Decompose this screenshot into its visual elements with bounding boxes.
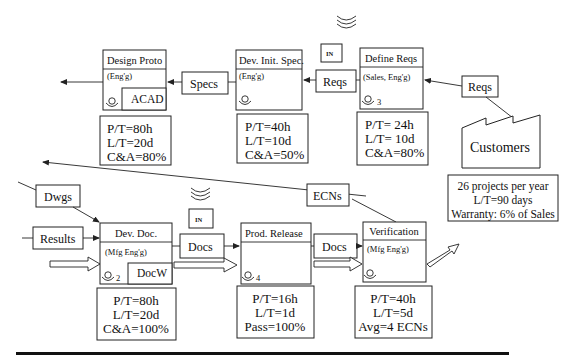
push-arrow-icon	[50, 257, 100, 271]
process-dev-init-spec[interactable]: Dev. Init. Spec. (Eng'g)	[236, 50, 304, 110]
flow-specs: Specs	[182, 72, 228, 94]
flow-docs-2: Docs	[314, 234, 357, 258]
inbox-icon: IN	[321, 16, 356, 62]
process-dept: (Mfg Eng'g)	[367, 244, 409, 254]
svg-text:P/T=40h: P/T=40h	[370, 291, 416, 306]
customer-info-box: 26 projects per year L/T=90 days Warrant…	[448, 175, 558, 221]
svg-text:Docs: Docs	[322, 240, 347, 254]
process-dev-doc[interactable]: Dev. Doc. (Mfg Eng'g) DocW 2	[100, 223, 172, 284]
process-title: Prod. Release	[245, 228, 303, 239]
svg-text:P/T=40h: P/T=40h	[245, 119, 291, 134]
push-arrow-icon	[314, 257, 362, 271]
process-title: Dev. Init. Spec.	[239, 55, 304, 66]
customer-factory-icon[interactable]: Customers	[462, 115, 540, 168]
flow-ecns: ECNs	[307, 184, 349, 206]
operator-count: 3	[377, 97, 381, 107]
svg-text:Dwgs: Dwgs	[44, 190, 72, 204]
svg-text:P/T=80h: P/T=80h	[107, 121, 153, 136]
value-stream-map: Design Proto (Eng'g) ACAD P/T=80h L/T=20…	[0, 0, 575, 362]
push-arrow-icon	[427, 244, 459, 267]
process-dept: (Eng'g)	[239, 71, 264, 81]
push-arrow-icon	[174, 258, 237, 272]
metrics-verification: P/T=40h L/T=5d Avg=4 ECNs	[355, 286, 432, 338]
divider	[16, 352, 509, 355]
customer-label: Customers	[470, 140, 530, 155]
flow-docs-1: Docs	[180, 234, 224, 258]
process-title: Define Reqs	[365, 53, 417, 64]
svg-text:IN: IN	[326, 50, 334, 57]
process-title: Verification	[369, 226, 419, 237]
process-design-proto[interactable]: Design Proto (Eng'g) ACAD	[103, 50, 166, 110]
svg-text:C&A=50%: C&A=50%	[245, 147, 305, 162]
process-verification[interactable]: Verification (Mfg Eng'g)	[363, 222, 426, 282]
svg-text:L/T=90 days: L/T=90 days	[473, 194, 533, 207]
svg-text:P/T= 24h: P/T= 24h	[365, 117, 414, 132]
operator-count: 2	[116, 273, 120, 283]
svg-text:Avg=4 ECNs: Avg=4 ECNs	[358, 319, 428, 334]
svg-text:L/T=10d: L/T=10d	[245, 133, 292, 148]
process-dept: (Eng'g)	[107, 71, 132, 81]
tool-label: ACAD	[131, 93, 164, 105]
process-dept: (Mfg Eng'g)	[105, 247, 147, 257]
process-dept: (Sales, Eng'g)	[363, 72, 410, 82]
metrics-dev-init-spec: P/T=40h L/T=10d C&A=50%	[237, 114, 308, 163]
process-prod-release[interactable]: Prod. Release 4	[241, 223, 311, 284]
inbox-icon: IN	[189, 188, 213, 228]
flow-reqs-customer: Reqs	[462, 76, 498, 97]
tool-label: DocW	[137, 267, 167, 279]
svg-text:Reqs: Reqs	[323, 75, 347, 89]
svg-text:L/T=1d: L/T=1d	[255, 305, 295, 320]
metrics-design-proto: P/T=80h L/T=20d C&A=80%	[100, 116, 171, 165]
metrics-define-reqs: P/T= 24h L/T= 10d C&A=80%	[357, 112, 428, 165]
svg-text:L/T=20d: L/T=20d	[107, 135, 154, 150]
svg-text:Reqs: Reqs	[468, 80, 492, 94]
flow-reqs: Reqs	[316, 70, 356, 92]
svg-text:L/T=5d: L/T=5d	[373, 305, 413, 320]
svg-text:Docs: Docs	[188, 240, 213, 254]
svg-text:L/T=20d: L/T=20d	[113, 307, 160, 322]
metrics-dev-doc: P/T=80h L/T=20d C&A=100%	[97, 288, 176, 340]
svg-text:C&A=80%: C&A=80%	[365, 145, 425, 160]
svg-text:26 projects per year: 26 projects per year	[457, 180, 548, 193]
process-title: Design Proto	[107, 55, 162, 66]
svg-text:Results: Results	[40, 232, 76, 246]
svg-text:L/T= 10d: L/T= 10d	[365, 131, 415, 146]
metrics-prod-release: P/T=16h L/T=1d Pass=100%	[237, 286, 314, 338]
svg-text:C&A=80%: C&A=80%	[107, 149, 167, 164]
svg-text:Warranty: 6% of Sales: Warranty: 6% of Sales	[451, 208, 555, 221]
svg-text:ECNs: ECNs	[313, 189, 342, 203]
svg-text:IN: IN	[195, 216, 203, 223]
svg-text:P/T=80h: P/T=80h	[113, 293, 159, 308]
flow-results: Results	[33, 227, 83, 249]
flow-dwgs: Dwgs	[36, 185, 80, 207]
svg-text:P/T=16h: P/T=16h	[252, 291, 298, 306]
svg-text:Pass=100%: Pass=100%	[245, 319, 306, 334]
svg-text:Specs: Specs	[190, 77, 218, 91]
svg-text:C&A=100%: C&A=100%	[103, 321, 169, 336]
process-define-reqs[interactable]: Define Reqs (Sales, Eng'g) 3	[360, 48, 423, 109]
process-title: Dev. Doc.	[115, 228, 157, 239]
